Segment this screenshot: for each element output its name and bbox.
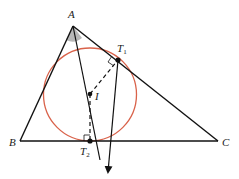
radius-it1 [90, 60, 118, 94]
label-b: B [9, 136, 16, 148]
point-t1 [115, 57, 120, 62]
side-ac [73, 26, 218, 141]
point-t2 [87, 138, 92, 143]
line-t1-arrow [108, 60, 118, 172]
side-ab [20, 26, 73, 141]
label-i: I [94, 90, 100, 102]
label-t2: T2 [80, 145, 90, 159]
geometry-diagram: A B C I T1 T2 [0, 0, 239, 179]
label-a: A [67, 8, 75, 20]
label-c: C [222, 136, 230, 148]
point-i [88, 92, 93, 97]
label-t1: T1 [117, 42, 127, 56]
